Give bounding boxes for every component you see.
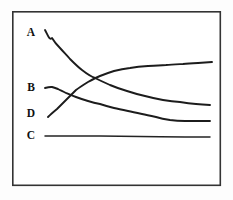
line-chart: A B D C xyxy=(0,0,233,200)
series-label-a: A xyxy=(27,26,36,38)
series-label-c: C xyxy=(27,129,35,141)
series-label-b: B xyxy=(27,81,35,93)
plot-frame xyxy=(13,12,221,186)
figure-root: A B D C xyxy=(0,0,233,200)
series-label-d: D xyxy=(27,107,35,119)
